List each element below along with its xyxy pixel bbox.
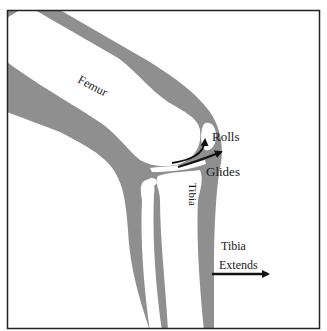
condyle-gap — [147, 178, 157, 186]
knee-diagram: Femur Rolls Glides Tibia Tibia Extends — [0, 0, 327, 331]
tibia-extends-label-line1: Tibia — [221, 239, 247, 253]
rolls-label: Rolls — [212, 129, 239, 144]
tibia-label: Tibia — [187, 183, 199, 206]
tibia-extends-label-line2: Extends — [219, 258, 258, 272]
glides-label: Glides — [206, 164, 240, 179]
